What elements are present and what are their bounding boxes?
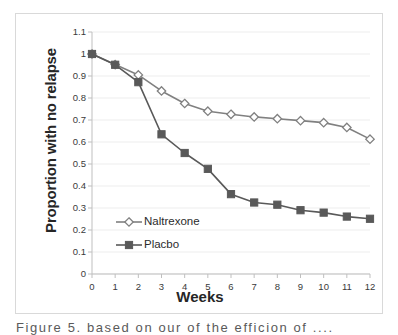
data-point-marker [227, 110, 235, 118]
legend-entry-placbo [116, 241, 142, 248]
data-point-marker [180, 99, 188, 107]
x-tick-label: 6 [220, 281, 242, 292]
x-tick-label: 11 [336, 281, 358, 292]
data-point-marker [158, 131, 165, 138]
data-point-marker [343, 123, 351, 131]
data-point-marker [88, 50, 95, 57]
y-tick-label: 0.5 [52, 158, 86, 169]
x-tick-label: 2 [127, 281, 149, 292]
data-point-marker [125, 241, 132, 248]
data-point-marker [274, 201, 281, 208]
x-tick-label: 7 [243, 281, 265, 292]
y-tick-label: 0.8 [52, 92, 86, 103]
figure-caption: Figure 5. based on our of the efficion o… [16, 320, 386, 335]
x-tick-label: 12 [359, 281, 381, 292]
x-tick-label: 3 [151, 281, 173, 292]
y-tick-label: 0.1 [52, 246, 86, 257]
data-point-marker [181, 149, 188, 156]
series-line [92, 54, 370, 139]
y-tick-label: 1.1 [52, 26, 86, 37]
data-point-marker [204, 107, 212, 115]
data-point-marker [366, 215, 373, 222]
x-tick-label: 5 [197, 281, 219, 292]
legend-label-naltrexone: Naltrexone [144, 215, 200, 227]
data-point-marker [112, 61, 119, 68]
data-point-marker [343, 213, 350, 220]
x-tick-label: 9 [290, 281, 312, 292]
data-point-marker [320, 209, 327, 216]
data-point-marker [204, 165, 211, 172]
y-tick-label: 0 [52, 268, 86, 279]
y-tick-label: 0.9 [52, 70, 86, 81]
data-point-marker [135, 79, 142, 86]
y-tick-label: 0.6 [52, 136, 86, 147]
data-point-marker [273, 114, 281, 122]
data-point-marker [296, 116, 304, 124]
legend-label-placbo: Placbo [144, 238, 179, 250]
y-tick-label: 0.4 [52, 180, 86, 191]
series-naltrexone [88, 50, 374, 144]
data-point-marker [251, 199, 258, 206]
x-tick-label: 10 [313, 281, 335, 292]
y-tick-label: 0.2 [52, 224, 86, 235]
data-point-marker [297, 207, 304, 214]
data-point-marker [125, 218, 133, 226]
data-point-marker [227, 191, 234, 198]
x-tick-label: 1 [104, 281, 126, 292]
x-tick-label: 4 [174, 281, 196, 292]
chart-frame: Proportion with no relapse Weeks Naltrex… [15, 13, 383, 314]
y-tick-label: 0.3 [52, 202, 86, 213]
y-tick-label: 0.7 [52, 114, 86, 125]
y-tick-label: 1 [52, 48, 86, 59]
x-tick-label: 0 [81, 281, 103, 292]
legend-entry-naltrexone [116, 218, 142, 226]
x-tick-label: 8 [266, 281, 288, 292]
